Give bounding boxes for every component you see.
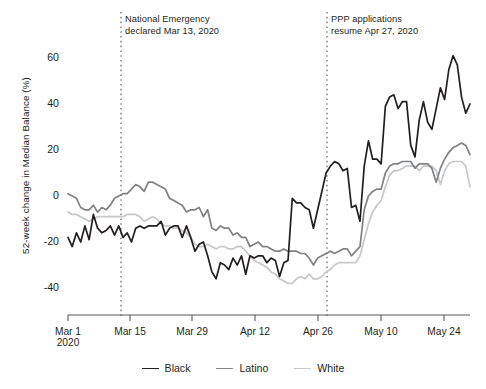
- legend-label: Latino: [239, 362, 268, 374]
- annotation-national-emergency: National Emergency declared Mar 13, 2020: [125, 14, 219, 37]
- x-tick-label: Apr 26: [287, 326, 349, 337]
- legend-item-white[interactable]: White: [294, 362, 344, 374]
- legend-item-latino[interactable]: Latino: [216, 362, 268, 374]
- y-tick-label: 20: [25, 143, 59, 155]
- y-tick-label: 40: [25, 97, 59, 109]
- annotation-guide-lines: [121, 12, 327, 318]
- series-line-latino: [68, 143, 470, 265]
- x-tick-label: Mar 1 2020: [37, 326, 99, 348]
- series-line-black: [68, 56, 470, 279]
- series-line-white: [68, 162, 470, 284]
- x-tick-label: Mar 15: [99, 326, 161, 337]
- x-tick-label: May 24: [413, 326, 475, 337]
- x-tick-label: May 10: [350, 326, 412, 337]
- x-tick-label: Mar 29: [161, 326, 223, 337]
- legend-swatch-black-icon: [142, 368, 159, 369]
- legend-swatch-white-icon: [294, 368, 311, 369]
- legend-swatch-latino-icon: [216, 368, 233, 369]
- y-tick-label: 0: [25, 189, 59, 201]
- y-tick-label: -40: [25, 281, 59, 293]
- chart-legend: BlackLatinoWhite: [0, 362, 486, 374]
- legend-label: Black: [165, 362, 191, 374]
- x-axis-ticks: [68, 315, 444, 321]
- legend-item-black[interactable]: Black: [142, 362, 191, 374]
- legend-label: White: [317, 362, 344, 374]
- annotation-ppp-applications: PPP applications resume Apr 27, 2020: [331, 14, 418, 37]
- x-tick-label: Apr 12: [224, 326, 286, 337]
- y-tick-label: -20: [25, 235, 59, 247]
- chart-figure: 52-week change in Median Balance (%) 604…: [0, 0, 486, 389]
- data-series-group: [68, 56, 470, 284]
- y-tick-label: 60: [25, 51, 59, 63]
- axis-lines: [68, 315, 470, 321]
